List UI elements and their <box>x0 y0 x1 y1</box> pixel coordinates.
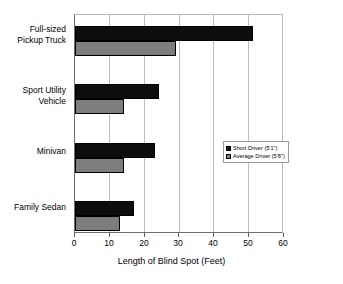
tick-mark-10 <box>109 233 110 237</box>
tick-label-20: 20 <box>131 238 157 248</box>
tick-mark-30 <box>178 233 179 237</box>
bar-short-driver-family-sedan <box>75 201 134 216</box>
plot-area: Short Driver (5'1") Average Driver (5'8"… <box>74 14 283 233</box>
gridline-50 <box>248 15 249 232</box>
tick-mark-20 <box>144 233 145 237</box>
legend-swatch-short-driver-icon <box>226 146 231 151</box>
tick-label-60: 60 <box>270 238 296 248</box>
tick-mark-60 <box>283 233 284 237</box>
tick-mark-50 <box>248 233 249 237</box>
legend-item-short-driver: Short Driver (5'1") <box>226 144 285 152</box>
legend-label-short-driver: Short Driver (5'1") <box>233 144 277 152</box>
gridline-30 <box>179 15 180 232</box>
bar-short-driver-full-sized-pickup-truck <box>75 26 253 41</box>
tick-label-40: 40 <box>200 238 226 248</box>
chart-legend: Short Driver (5'1") Average Driver (5'8"… <box>223 141 289 163</box>
bar-short-driver-minivan <box>75 143 155 158</box>
legend-swatch-average-driver-icon <box>226 154 231 159</box>
tick-label-10: 10 <box>96 238 122 248</box>
bar-average-driver-family-sedan <box>75 216 120 231</box>
category-label-sport-utility-vehicle: Sport Utility Vehicle <box>0 85 66 106</box>
bar-average-driver-minivan <box>75 158 124 173</box>
bar-average-driver-full-sized-pickup-truck <box>75 41 176 56</box>
x-axis-title: Length of Blind Spot (Feet) <box>0 256 343 266</box>
tick-label-0: 0 <box>61 238 87 248</box>
tick-label-50: 50 <box>235 238 261 248</box>
gridline-40 <box>213 15 214 232</box>
tick-mark-40 <box>213 233 214 237</box>
category-label-minivan: Minivan <box>0 146 66 157</box>
bar-short-driver-sport-utility-vehicle <box>75 84 159 99</box>
category-label-family-sedan: Family Sedan <box>0 202 66 213</box>
tick-mark-0 <box>74 233 75 237</box>
tick-label-30: 30 <box>165 238 191 248</box>
category-label-full-sized-pickup-truck: Full-sized Pickup Truck <box>0 24 66 45</box>
legend-item-average-driver: Average Driver (5'8") <box>226 152 285 160</box>
blind-spot-bar-chart: Full-sized Pickup Truck Sport Utility Ve… <box>0 0 343 284</box>
legend-label-average-driver: Average Driver (5'8") <box>233 152 285 160</box>
bar-average-driver-sport-utility-vehicle <box>75 99 124 114</box>
